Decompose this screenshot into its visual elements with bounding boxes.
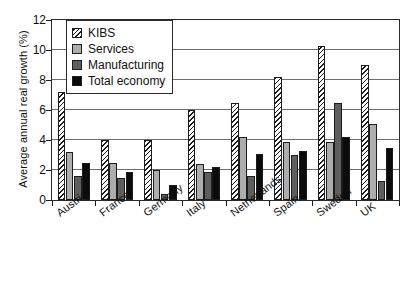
- x-tick-mark-5: [269, 201, 270, 206]
- x-tick-mark-3: [182, 201, 183, 206]
- legend-swatch-manufacturing-icon: [72, 60, 82, 70]
- y-axis-tick-labels: 024681012: [20, 0, 46, 290]
- y-tick-label-0: 0: [24, 195, 46, 205]
- bar-group-italy: [182, 20, 225, 200]
- y-tick-mark-2: [46, 170, 51, 171]
- bar-manufacturing-sweden: [334, 103, 342, 201]
- bar-services-uk: [369, 124, 377, 201]
- legend-label-manufacturing: Manufacturing: [88, 59, 164, 71]
- bar-services-sweden: [326, 142, 334, 201]
- y-tick-mark-12: [46, 20, 51, 21]
- bar-services-spain: [283, 142, 291, 201]
- bar-total-italy: [212, 167, 220, 200]
- bar-services-netherlands: [239, 137, 247, 200]
- x-tick-mark-7: [356, 201, 357, 206]
- bar-total-spain: [299, 151, 307, 201]
- bar-kibs-france: [101, 140, 109, 200]
- bar-services-austria: [66, 152, 74, 200]
- y-tick-label-10: 10: [24, 45, 46, 55]
- legend-swatch-services-icon: [72, 44, 82, 54]
- bar-kibs-germany: [144, 140, 152, 200]
- y-tick-mark-6: [46, 110, 51, 111]
- y-tick-mark-0: [46, 200, 51, 201]
- x-tick-mark-1: [95, 201, 96, 206]
- legend-swatch-total-icon: [72, 76, 82, 86]
- y-tick-label-6: 6: [24, 105, 46, 115]
- bar-total-uk: [386, 148, 394, 201]
- bar-kibs-austria: [58, 92, 66, 200]
- x-tick-mark-6: [312, 201, 313, 206]
- bar-kibs-sweden: [318, 46, 326, 201]
- legend-item-manufacturing: Manufacturing: [72, 57, 165, 73]
- bar-services-italy: [196, 164, 204, 200]
- bar-manufacturing-italy: [204, 172, 212, 201]
- x-tick-mark-0: [52, 201, 53, 206]
- legend-item-services: Services: [72, 41, 165, 57]
- x-tick-mark-2: [139, 201, 140, 206]
- bar-kibs-uk: [361, 65, 369, 200]
- bar-kibs-netherlands: [231, 103, 239, 201]
- y-tick-label-4: 4: [24, 135, 46, 145]
- y-tick-mark-4: [46, 140, 51, 141]
- y-tick-label-12: 12: [24, 15, 46, 25]
- y-tick-label-8: 8: [24, 75, 46, 85]
- x-axis-label-uk: UK: [358, 200, 378, 219]
- x-tick-mark-8: [399, 201, 400, 206]
- legend-label-kibs: KIBS: [88, 27, 115, 39]
- chart-legend: KIBSServicesManufacturingTotal economy: [66, 20, 173, 94]
- legend-label-services: Services: [88, 43, 134, 55]
- y-tick-mark-8: [46, 80, 51, 81]
- legend-label-total: Total economy: [88, 75, 165, 87]
- y-tick-label-2: 2: [24, 165, 46, 175]
- y-tick-mark-10: [46, 50, 51, 51]
- chart-figure: Average annual real growth (%) 024681012…: [0, 0, 415, 290]
- bar-group-uk: [356, 20, 399, 200]
- bar-kibs-italy: [188, 110, 196, 200]
- bar-group-sweden: [312, 20, 355, 200]
- x-tick-mark-4: [226, 201, 227, 206]
- legend-item-total: Total economy: [72, 73, 165, 89]
- legend-swatch-kibs-icon: [72, 28, 82, 38]
- bar-group-netherlands: [226, 20, 269, 200]
- bar-manufacturing-uk: [378, 181, 386, 201]
- legend-item-kibs: KIBS: [72, 25, 165, 41]
